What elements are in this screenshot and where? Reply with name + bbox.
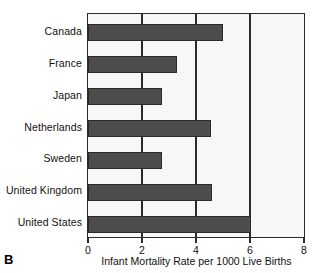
plot-area	[87, 13, 305, 238]
x-tick-4	[195, 238, 197, 243]
category-label-france: France	[0, 58, 82, 69]
x-tick-8	[303, 238, 305, 243]
category-axis-labels: Canada France Japan Netherlands Sweden U…	[0, 13, 82, 238]
category-label-united-kingdom: United Kingdom	[0, 185, 82, 196]
bar-canada[interactable]	[88, 24, 223, 41]
bar-sweden[interactable]	[88, 152, 162, 169]
x-tick-0	[87, 238, 89, 243]
bar-japan[interactable]	[88, 88, 162, 105]
panel-label: B	[4, 252, 13, 267]
bar-france[interactable]	[88, 56, 177, 73]
x-axis-title: Infant Mortality Rate per 1000 Live Birt…	[87, 255, 306, 267]
chart-figure: Canada France Japan Netherlands Sweden U…	[0, 0, 320, 273]
x-tick-6	[249, 238, 251, 243]
category-label-japan: Japan	[0, 90, 82, 101]
gridline-x-6	[249, 14, 251, 237]
bar-netherlands[interactable]	[88, 120, 211, 137]
bar-united-kingdom[interactable]	[88, 184, 212, 201]
category-label-netherlands: Netherlands	[0, 122, 82, 133]
plot-inner	[88, 14, 304, 237]
bar-united-states[interactable]	[88, 216, 251, 233]
category-label-canada: Canada	[0, 26, 82, 37]
x-tick-2	[141, 238, 143, 243]
category-label-sweden: Sweden	[0, 153, 82, 164]
category-label-united-states: United States	[0, 217, 82, 228]
